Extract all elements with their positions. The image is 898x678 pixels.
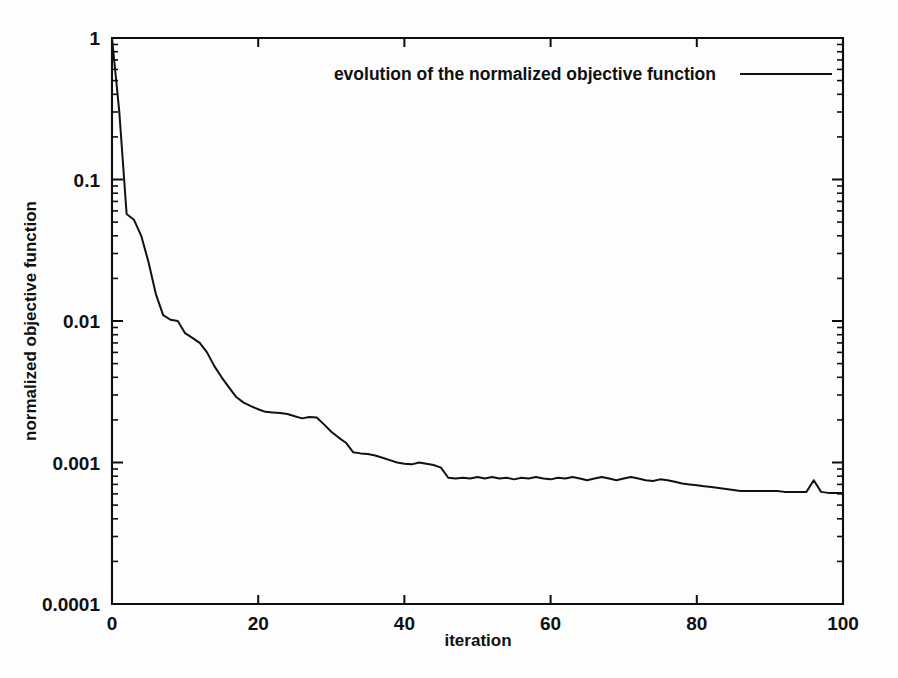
y-axis-tick-labels: 10.10.010.0010.0001 bbox=[42, 28, 101, 615]
series-line-objective-function bbox=[112, 38, 843, 493]
y-axis-minor-ticks bbox=[112, 44, 843, 561]
x-tick-label: 0 bbox=[107, 613, 118, 634]
y-axis-ticks bbox=[112, 38, 843, 604]
plot-frame bbox=[112, 38, 843, 604]
legend-entry-label: evolution of the normalized objective fu… bbox=[334, 64, 716, 84]
y-axis-label: normalized objective function bbox=[21, 201, 40, 441]
y-tick-label: 0.01 bbox=[63, 311, 100, 332]
x-tick-label: 100 bbox=[827, 613, 859, 634]
data-series-group bbox=[112, 38, 843, 493]
y-tick-label: 0.1 bbox=[74, 170, 101, 191]
legend: evolution of the normalized objective fu… bbox=[334, 64, 832, 84]
figure-canvas: 020406080100 10.10.010.0010.0001 iterati… bbox=[0, 0, 898, 678]
x-tick-label: 80 bbox=[686, 613, 707, 634]
x-tick-label: 60 bbox=[540, 613, 561, 634]
y-tick-label: 1 bbox=[89, 28, 100, 49]
convergence-chart: 020406080100 10.10.010.0010.0001 iterati… bbox=[0, 0, 898, 678]
x-axis-ticks bbox=[112, 38, 843, 604]
x-axis-label: iteration bbox=[444, 631, 511, 650]
axis-frame bbox=[112, 38, 843, 604]
x-tick-label: 40 bbox=[394, 613, 415, 634]
x-tick-label: 20 bbox=[248, 613, 269, 634]
y-tick-label: 0.001 bbox=[52, 453, 100, 474]
y-tick-label: 0.0001 bbox=[42, 594, 101, 615]
